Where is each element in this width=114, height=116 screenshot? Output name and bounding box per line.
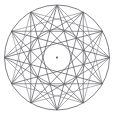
geometric-figure-canvas [0,0,114,116]
center-point-dot [56,57,58,59]
geometry-diagram [0,0,114,116]
